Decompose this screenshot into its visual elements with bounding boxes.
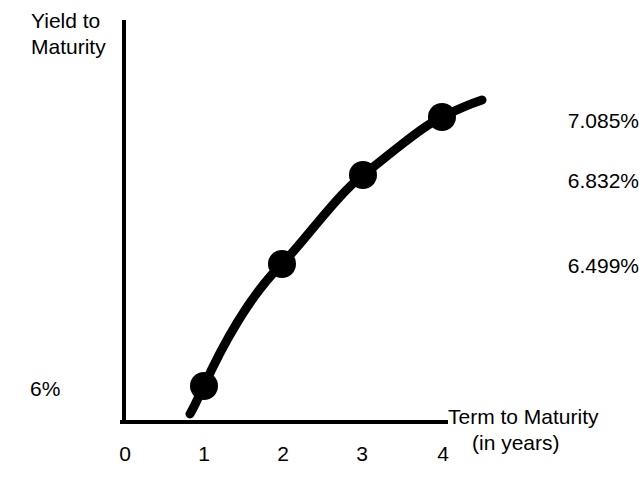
data-point-marker xyxy=(349,161,377,189)
plot-area xyxy=(0,0,639,495)
data-point-marker xyxy=(268,250,296,278)
yield-curve-chart: Yield to Maturity 7.085% 6.832% 6.499% 6… xyxy=(0,0,639,495)
data-point-marker xyxy=(428,103,456,131)
yield-curve-line xyxy=(190,100,482,414)
data-point-marker xyxy=(190,372,218,400)
